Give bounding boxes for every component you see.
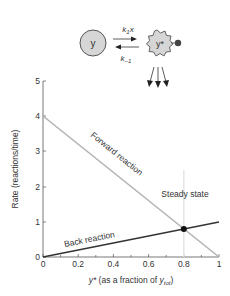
svg-text:1: 1 [217,259,222,269]
axes: 0 1 2 3 4 5 0 0.2 0.4 0.6 0.8 1 [10,76,222,286]
forward-rate-label: k1x [122,25,134,35]
svg-text:0.4: 0.4 [107,259,119,269]
y-tick-labels: 0 1 2 3 4 5 [35,76,40,262]
downstream-arrows-icon [150,67,166,83]
svg-text:4: 4 [35,111,40,121]
svg-text:5: 5 [35,76,40,86]
y-label: y [91,38,96,49]
backward-arrow-icon [115,45,121,50]
forward-reaction-line [43,116,219,257]
svg-text:0.2: 0.2 [72,259,84,269]
y-axis-label: Rate (reactions/time) [10,129,20,208]
reaction-schematic: y k1x k−1 y* [80,25,181,88]
svg-text:1: 1 [35,217,40,227]
back-reaction-label: Back reaction [63,229,116,249]
backward-rate-label: k−1 [121,54,132,64]
svg-text:0: 0 [41,259,46,269]
x-tick-labels: 0 0.2 0.4 0.6 0.8 1 [41,259,222,269]
forward-reaction-label: Forward reaction [89,130,145,178]
chart-figure: y k1x k−1 y* 0 [0,0,230,296]
svg-text:3: 3 [35,146,40,156]
svg-text:2: 2 [35,182,40,192]
forward-arrow-icon [131,37,137,42]
svg-text:0: 0 [35,252,40,262]
y-star-label: y* [156,39,165,49]
svg-text:0.6: 0.6 [143,259,155,269]
steady-state-point [181,226,187,232]
svg-text:0.8: 0.8 [178,259,190,269]
steady-state-label: Steady state [161,189,209,199]
x-axis-label: y* (as a fraction of ytot) [88,275,174,286]
phosphate-icon [175,40,181,46]
